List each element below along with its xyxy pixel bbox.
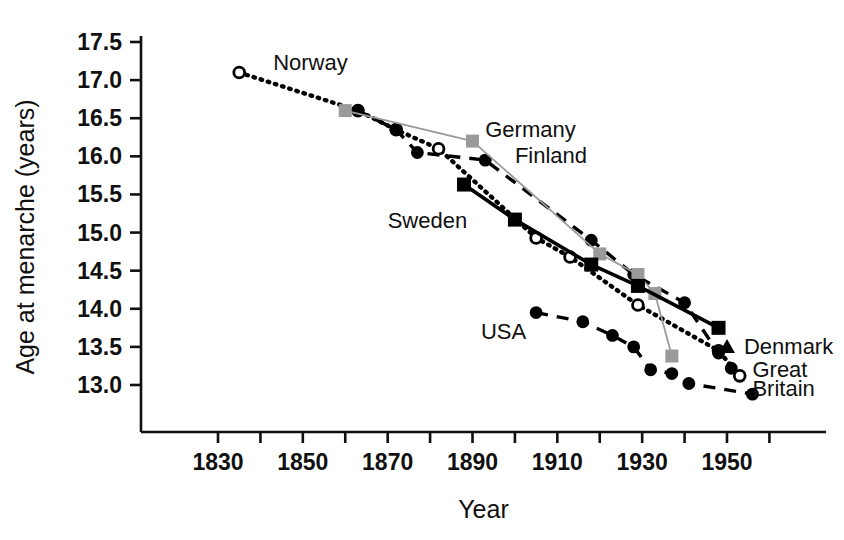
y-axis-tick-label: 14.5	[77, 258, 122, 284]
data-point-marker	[576, 315, 589, 328]
x-axis-tick-label: 1870	[362, 449, 413, 475]
data-point-marker	[712, 321, 726, 335]
x-axis-tick-label: 1930	[617, 449, 668, 475]
y-axis-tick-label: 14.0	[77, 296, 122, 322]
axes: 13.013.514.014.515.015.516.016.517.017.5…	[77, 29, 826, 475]
y-axis-tick-label: 17.0	[77, 67, 122, 93]
data-point-marker	[390, 123, 403, 136]
data-point-marker	[585, 234, 598, 247]
y-axis-tick-label: 13.5	[77, 334, 122, 360]
series-annotations: NorwayGermanyFinlandSwedenUSADenmarkGrea…	[273, 50, 834, 400]
chart-container: 13.013.514.014.515.015.516.016.517.017.5…	[0, 0, 844, 540]
data-point-marker	[633, 300, 644, 311]
data-point-marker	[682, 377, 695, 390]
x-axis-tick-label: 1910	[532, 449, 583, 475]
data-point-marker	[606, 329, 619, 342]
x-axis-tick-label: 1890	[447, 449, 498, 475]
x-axis-tick-label: 1830	[192, 449, 243, 475]
data-point-marker	[631, 279, 645, 293]
series-annotation-britain: Britain	[752, 376, 814, 401]
y-axis-tick-label: 15.0	[77, 220, 122, 246]
data-point-marker	[665, 367, 678, 380]
y-axis-tick-label: 16.0	[77, 143, 122, 169]
data-point-marker	[725, 362, 738, 375]
data-point-marker	[466, 135, 479, 148]
menarche-age-line-chart: 13.013.514.014.515.015.516.016.517.017.5…	[0, 0, 844, 540]
series-annotation-usa: USA	[481, 319, 527, 344]
data-point-marker	[627, 340, 640, 353]
y-axis-tick-label: 13.0	[77, 372, 122, 398]
series-annotation-norway: Norway	[273, 50, 348, 75]
x-axis-tick-label: 1950	[701, 449, 752, 475]
data-point-marker	[411, 146, 424, 159]
y-axis-tick-label: 17.5	[77, 29, 122, 55]
data-point-marker	[665, 350, 678, 363]
data-point-marker	[433, 143, 444, 154]
data-point-marker	[234, 67, 245, 78]
data-point-marker	[530, 306, 543, 319]
series-annotation-denmark: Denmark	[744, 334, 834, 359]
data-point-marker	[508, 213, 522, 227]
x-axis-tick-label: 1850	[277, 449, 328, 475]
data-point-marker	[584, 258, 598, 272]
x-axis-title: Year	[458, 495, 509, 523]
series-annotation-sweden: Sweden	[388, 208, 468, 233]
data-point-marker	[457, 178, 471, 192]
series-annotation-finland: Finland	[515, 143, 587, 168]
data-point-marker	[339, 104, 352, 117]
y-axis-tick-label: 15.5	[77, 181, 122, 207]
series-annotation-germany: Germany	[485, 117, 575, 142]
y-axis-tick-label: 16.5	[77, 105, 122, 131]
y-axis-title: Age at menarche (years)	[11, 99, 39, 374]
data-point-marker	[644, 363, 657, 376]
